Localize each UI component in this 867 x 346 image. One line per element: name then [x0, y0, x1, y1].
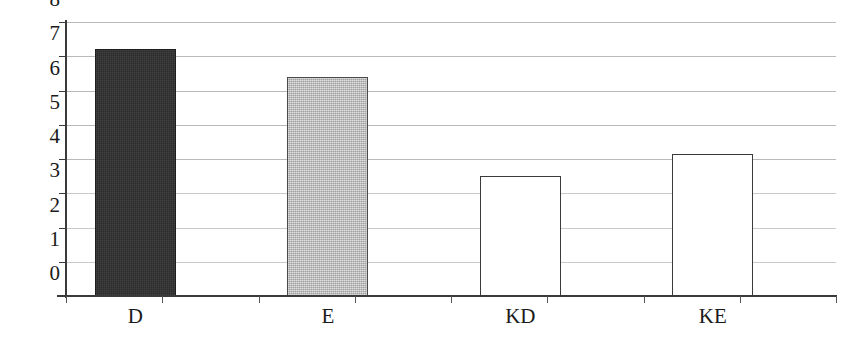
x-tick-mark-6 — [644, 296, 645, 303]
x-category-label-ke: KE — [653, 306, 773, 327]
x-tick-mark-2 — [259, 296, 260, 303]
bar-kd — [480, 176, 561, 296]
x-tick-mark-3 — [355, 296, 356, 303]
x-tick-mark-4 — [451, 296, 452, 303]
x-tick-mark-5 — [547, 296, 548, 303]
y-tick-label-0: 0 — [30, 263, 60, 284]
bar-d — [95, 49, 176, 296]
y-tick-label-5: 5 — [30, 92, 60, 113]
bar-e — [287, 77, 368, 296]
y-tick-label-4: 4 — [30, 126, 60, 147]
y-tick-label-6: 6 — [30, 58, 60, 79]
y-tick-mark-6 — [59, 91, 66, 92]
y-tick-mark-5 — [59, 125, 66, 126]
y-tick-label-7: 7 — [30, 23, 60, 44]
y-tick-label-1: 1 — [30, 229, 60, 250]
y-tick-mark-2 — [59, 228, 66, 229]
y-tick-mark-1 — [59, 262, 66, 263]
x-tick-mark-0 — [66, 296, 67, 303]
y-tick-mark-8 — [59, 22, 66, 23]
x-category-label-e: E — [268, 306, 388, 327]
y-tick-mark-7 — [59, 56, 66, 57]
x-category-label-kd: KD — [460, 306, 580, 327]
y-tick-mark-4 — [59, 159, 66, 160]
x-tick-mark-8 — [836, 296, 837, 303]
bar-ke — [672, 154, 753, 296]
x-axis-line — [57, 295, 837, 297]
x-tick-mark-1 — [162, 296, 163, 303]
x-category-label-d: D — [75, 306, 195, 327]
y-tick-label-8: 8 — [30, 0, 60, 10]
x-tick-mark-7 — [740, 296, 741, 303]
y-tick-mark-3 — [59, 193, 66, 194]
y-tick-label-3: 3 — [30, 160, 60, 181]
bar-chart: 012345678 DEKDKE — [0, 0, 867, 346]
y-tick-label-2: 2 — [30, 195, 60, 216]
y-axis-tick-labels: 012345678 — [22, 0, 60, 274]
bars-layer — [66, 22, 836, 296]
